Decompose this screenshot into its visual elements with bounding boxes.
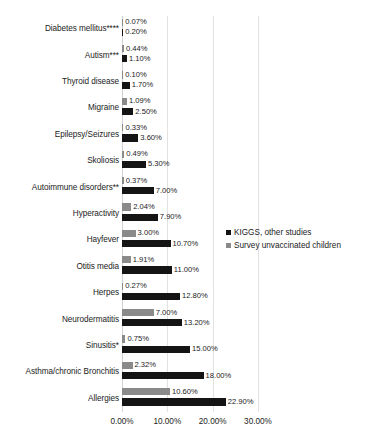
- bar-value-label: 2.04%: [133, 203, 155, 211]
- bar-survey-unvaccinated: [122, 177, 124, 184]
- category-label: Migraine: [88, 104, 119, 112]
- bar-survey-unvaccinated: [122, 71, 123, 78]
- x-axis: 0.00%10.00%20.00%30.00%: [0, 418, 365, 432]
- bar-survey-unvaccinated: [122, 309, 154, 316]
- bar-value-label: 0.33%: [125, 124, 147, 132]
- bar-value-label: 3.60%: [140, 134, 162, 142]
- bar-row: Autoimmune disorders**0.37%7.00%: [0, 174, 365, 200]
- bar-value-label: 0.75%: [127, 335, 149, 343]
- bar-value-label: 22.90%: [228, 398, 254, 406]
- bar-value-label: 0.27%: [125, 282, 147, 290]
- bar-value-label: 11.00%: [174, 266, 199, 274]
- bar-value-label: 0.07%: [125, 18, 147, 26]
- legend-label: Survey unvaccinated children: [234, 239, 341, 252]
- category-label: Epilepsy/Seizures: [55, 131, 119, 139]
- bar-value-label: 15.00%: [192, 345, 218, 353]
- bar-row: Asthma/chronic Bronchitis2.32%18.00%: [0, 359, 365, 385]
- bar-row: Allergies10.60%22.90%: [0, 386, 365, 412]
- bar-value-label: 0.49%: [126, 150, 148, 158]
- bar-kiggs-other-studies: [122, 372, 204, 379]
- category-label: Allergies: [88, 395, 119, 403]
- category-label: Sinusitis*: [86, 342, 119, 350]
- bar-value-label: 2.32%: [135, 361, 157, 369]
- bar-kiggs-other-studies: [122, 108, 133, 115]
- category-label: Thyroid disease: [62, 78, 119, 86]
- bar-row: Diabetes mellitus****0.07%0.20%: [0, 16, 365, 42]
- bar-row: Otitis media1.91%11.00%: [0, 254, 365, 280]
- bar-row: Herpes0.27%12.80%: [0, 280, 365, 306]
- bar-survey-unvaccinated: [122, 335, 125, 342]
- bar-row: Hyperactivity2.04%7.90%: [0, 201, 365, 227]
- bar-kiggs-other-studies: [122, 161, 146, 168]
- bar-value-label: 7.00%: [156, 309, 178, 317]
- category-label: Diabetes mellitus****: [45, 25, 119, 33]
- category-label: Otitis media: [76, 263, 119, 271]
- bar-kiggs-other-studies: [122, 29, 123, 36]
- bar-survey-unvaccinated: [122, 98, 127, 105]
- bar-row: Skoliosis0.49%5.30%: [0, 148, 365, 174]
- bar-kiggs-other-studies: [122, 214, 158, 221]
- chart-legend: KIGGS, other studies Survey unvaccinated…: [226, 226, 341, 252]
- bar-value-label: 1.70%: [132, 81, 154, 89]
- bar-value-label: 7.00%: [156, 187, 178, 195]
- legend-item-survey: Survey unvaccinated children: [226, 239, 341, 252]
- bar-survey-unvaccinated: [122, 362, 133, 369]
- legend-swatch-icon: [226, 243, 231, 248]
- bar-value-label: 1.10%: [129, 55, 151, 63]
- category-label: Asthma/chronic Bronchitis: [26, 368, 119, 376]
- bar-kiggs-other-studies: [122, 82, 130, 89]
- bar-survey-unvaccinated: [122, 388, 170, 395]
- category-label: Hyperactivity: [73, 210, 119, 218]
- bar-value-label: 1.91%: [133, 256, 155, 264]
- bar-value-label: 13.20%: [184, 319, 210, 327]
- bar-value-label: 2.50%: [135, 108, 157, 116]
- bar-row: Autism***0.44%1.10%: [0, 42, 365, 68]
- bar-survey-unvaccinated: [122, 45, 124, 52]
- bar-kiggs-other-studies: [122, 134, 138, 141]
- bar-survey-unvaccinated: [122, 230, 136, 237]
- bar-survey-unvaccinated: [122, 203, 131, 210]
- bar-row: Neurodermatitis7.00%13.20%: [0, 306, 365, 332]
- x-axis-tick-label: 0.00%: [110, 418, 133, 426]
- bar-kiggs-other-studies: [122, 55, 127, 62]
- x-axis-tick-label: 30.00%: [244, 418, 272, 426]
- bar-kiggs-other-studies: [122, 346, 190, 353]
- bar-value-label: 10.60%: [172, 388, 198, 396]
- bar-value-label: 12.80%: [182, 292, 208, 300]
- bar-kiggs-other-studies: [122, 240, 171, 247]
- x-axis-tick-label: 10.00%: [153, 418, 181, 426]
- bar-value-label: 7.90%: [160, 213, 182, 221]
- bar-kiggs-other-studies: [122, 187, 154, 194]
- bar-value-label: 18.00%: [206, 372, 232, 380]
- bar-value-label: 10.70%: [173, 240, 199, 248]
- bar-value-label: 0.37%: [126, 177, 148, 185]
- bar-row: Sinusitis*0.75%15.00%: [0, 333, 365, 359]
- bar-value-label: 1.09%: [129, 97, 151, 105]
- legend-swatch-icon: [226, 230, 231, 235]
- bar-value-label: 3.00%: [138, 229, 160, 237]
- legend-item-kiggs: KIGGS, other studies: [226, 226, 341, 239]
- bar-value-label: 0.10%: [125, 71, 147, 79]
- category-label: Skoliosis: [87, 157, 119, 165]
- bar-kiggs-other-studies: [122, 266, 172, 273]
- bar-kiggs-other-studies: [122, 293, 180, 300]
- bar-survey-unvaccinated: [122, 256, 131, 263]
- category-label: Autoimmune disorders**: [32, 184, 119, 192]
- category-label: Hayfever: [87, 236, 119, 244]
- bar-value-label: 0.44%: [126, 45, 148, 53]
- bar-row: Thyroid disease0.10%1.70%: [0, 69, 365, 95]
- bar-row: Epilepsy/Seizures0.33%3.60%: [0, 122, 365, 148]
- x-axis-tick-label: 20.00%: [199, 418, 227, 426]
- bar-row: Migraine1.09%2.50%: [0, 95, 365, 121]
- bar-survey-unvaccinated: [122, 151, 124, 158]
- category-label: Neurodermatitis: [62, 316, 119, 324]
- bar-survey-unvaccinated: [122, 283, 123, 290]
- legend-label: KIGGS, other studies: [234, 226, 311, 239]
- bar-value-label: 0.20%: [125, 28, 147, 36]
- bar-survey-unvaccinated: [122, 19, 123, 26]
- category-label: Autism***: [85, 52, 119, 60]
- bar-chart: Diabetes mellitus****0.07%0.20%Autism***…: [0, 0, 365, 446]
- bar-value-label: 5.30%: [148, 160, 170, 168]
- bar-survey-unvaccinated: [122, 124, 123, 131]
- category-label: Herpes: [93, 289, 119, 297]
